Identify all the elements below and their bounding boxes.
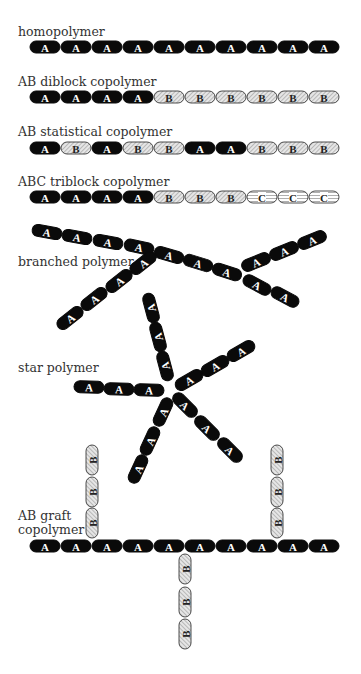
bead-letter: B — [272, 519, 284, 527]
bead-A: A — [134, 383, 164, 397]
bead-A: A — [61, 191, 91, 204]
graft-label-line2: copolymer — [18, 522, 84, 537]
bead-letter: B — [289, 143, 297, 155]
star-polymer-label: star polymer — [18, 360, 99, 375]
bead-A: A — [192, 413, 222, 443]
homopolymer-label: homopolymer — [18, 24, 105, 39]
bead-A: A — [278, 41, 308, 54]
bead-letter: A — [165, 541, 173, 553]
bead-C: C — [247, 191, 277, 204]
bead-A: A — [30, 191, 60, 204]
bead-A: A — [30, 540, 60, 553]
bead-A: A — [54, 304, 85, 332]
branched-polymer-section: branched polymer AAAAAAAAAAAAAAAA — [18, 223, 328, 332]
bead-B: B — [179, 554, 192, 584]
bead-A: A — [182, 253, 214, 274]
bead-letter: B — [258, 92, 266, 104]
bead-A: A — [216, 41, 246, 54]
bead-A: A — [185, 41, 215, 54]
bead-A: A — [104, 382, 134, 396]
bead-A: A — [148, 321, 168, 353]
bead-A: A — [153, 245, 185, 265]
bead-letter: B — [180, 598, 192, 606]
bead-letter: C — [258, 192, 266, 204]
bead-letter: A — [41, 42, 49, 54]
bead-A: A — [278, 540, 308, 553]
bead-A: A — [138, 425, 162, 457]
graft-backbone: AAAAAAAAAA — [30, 540, 339, 553]
bead-B: B — [216, 91, 246, 104]
bead-A: A — [155, 350, 175, 382]
bead-B: B — [271, 477, 284, 507]
bead-letter: B — [180, 630, 192, 638]
star-polymer-section: star polymer AAAAAAAAAAAAAAA — [18, 292, 257, 486]
bead-letter: A — [103, 541, 111, 553]
bead-A: A — [92, 233, 124, 251]
abc-triblock-section: ABC triblock copolymer AAAABBBCCC — [17, 174, 339, 204]
bead-letter: B — [320, 143, 328, 155]
bead-B: B — [61, 142, 91, 155]
bead-B: B — [247, 91, 277, 104]
bead-letter: B — [258, 143, 266, 155]
homopolymer-chain: AAAAAAAAAA — [30, 41, 339, 54]
bead-B: B — [247, 142, 277, 155]
bead-letter: B — [272, 488, 284, 496]
bead-letter: B — [272, 456, 284, 464]
bead-B: B — [154, 191, 184, 204]
bead-A: A — [247, 41, 277, 54]
bead-A: A — [123, 540, 153, 553]
bead-B: B — [154, 91, 184, 104]
bead-letter: B — [320, 92, 328, 104]
bead-letter: A — [289, 42, 297, 54]
bead-letter: A — [134, 541, 142, 553]
bead-B: B — [123, 142, 153, 155]
bead-B: B — [278, 91, 308, 104]
bead-A: A — [123, 91, 153, 104]
bead-A: A — [30, 142, 60, 155]
bead-B: B — [216, 191, 246, 204]
bead-letter: B — [134, 143, 142, 155]
bead-A: A — [240, 251, 272, 274]
bead-A: A — [211, 262, 243, 283]
bead-letter: B — [165, 143, 173, 155]
ab-statistical-section: AB statistical copolymer ABABBAABBB — [17, 124, 339, 155]
bead-B: B — [309, 91, 339, 104]
bead-A: A — [170, 390, 200, 420]
bead-letter: B — [196, 92, 204, 104]
abc-triblock-chain: AAAABBBCCC — [30, 191, 339, 204]
bead-letter: B — [72, 143, 80, 155]
ab-diblock-chain: AAAABBBBBB — [30, 91, 339, 104]
bead-letter: A — [320, 541, 328, 553]
bead-A: A — [92, 191, 122, 204]
bead-letter: A — [134, 92, 142, 104]
bead-A: A — [173, 367, 205, 393]
bead-letter: B — [87, 519, 99, 527]
bead-A: A — [61, 41, 91, 54]
bead-A: A — [216, 142, 246, 155]
bead-letter: A — [145, 384, 153, 396]
bead-letter: A — [289, 541, 297, 553]
bead-letter: B — [227, 92, 235, 104]
bead-letter: A — [85, 381, 93, 393]
bead-B: B — [179, 587, 192, 617]
polymer-architectures-diagram: homopolymer AAAAAAAAAA AB diblock copoly… — [0, 0, 361, 674]
bead-letter: B — [87, 456, 99, 464]
bead-letter: A — [227, 541, 235, 553]
bead-letter: A — [103, 143, 111, 155]
bead-A: A — [103, 267, 134, 295]
bead-letter: A — [115, 383, 123, 395]
bead-B: B — [271, 445, 284, 475]
bead-A: A — [241, 273, 273, 298]
ab-statistical-label: AB statistical copolymer — [17, 124, 172, 139]
bead-letter: A — [103, 42, 111, 54]
ab-statistical-chain: ABABBAABBB — [30, 142, 339, 155]
bead-B: B — [86, 477, 99, 507]
bead-A: A — [269, 285, 301, 310]
bead-C: C — [309, 191, 339, 204]
branched-polymer-label: branched polymer — [18, 254, 134, 269]
bead-A: A — [92, 91, 122, 104]
bead-letter: A — [72, 541, 80, 553]
bead-A: A — [74, 380, 104, 394]
bead-B: B — [86, 508, 99, 538]
bead-A: A — [268, 240, 300, 263]
